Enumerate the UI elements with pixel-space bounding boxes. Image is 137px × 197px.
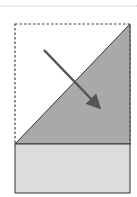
fold-diagram <box>0 0 137 197</box>
base-strip <box>15 144 130 193</box>
folded-flap <box>15 24 130 144</box>
